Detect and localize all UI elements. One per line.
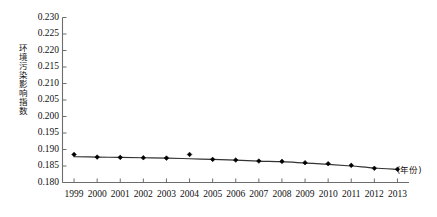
plot-area <box>0 0 437 217</box>
data-point-markers <box>72 152 400 171</box>
chart-container: 环境污染影响指数 0.1800.1850.1900.1950.2000.2050… <box>0 0 437 217</box>
